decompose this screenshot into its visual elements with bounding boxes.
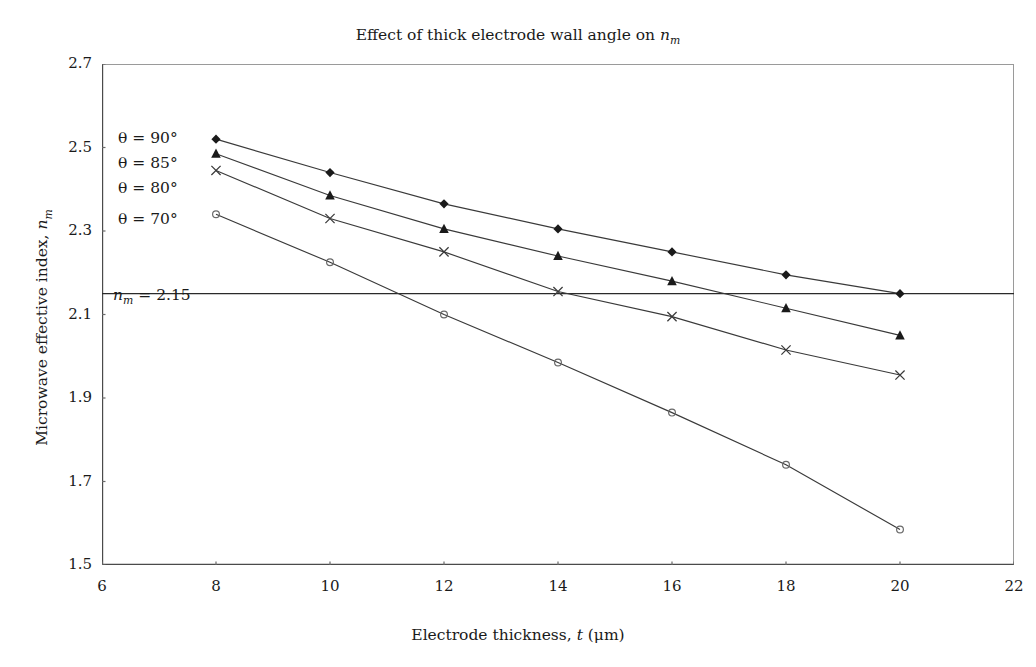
data-point-diamond-marker xyxy=(211,135,220,144)
x-axis-title-text: Electrode thickness, xyxy=(411,626,571,644)
y-axis-tick-label: 2.1 xyxy=(40,307,92,322)
x-axis-tick-label: 16 xyxy=(652,579,692,594)
reference-line-symbol: n xyxy=(113,286,123,304)
x-axis-tick-label: 22 xyxy=(994,579,1034,594)
y-axis-tick-label: 2.3 xyxy=(40,223,92,238)
x-axis-tick-label: 6 xyxy=(82,579,122,594)
reference-line-value: = 2.15 xyxy=(138,286,190,304)
x-axis-title-symbol: t xyxy=(577,626,583,644)
data-point-cross-marker xyxy=(895,370,904,379)
series-line xyxy=(216,154,900,336)
data-point-diamond-marker xyxy=(439,199,448,208)
x-axis-tick-label: 14 xyxy=(538,579,578,594)
y-axis-tick-label: 1.7 xyxy=(40,474,92,489)
data-point-cross-marker xyxy=(553,287,562,296)
x-axis-unit: (μm) xyxy=(588,626,625,644)
series-line xyxy=(216,214,900,529)
x-axis-title: Electrode thickness, t (μm) xyxy=(0,626,1036,644)
y-axis-title-text: Microwave effective index, xyxy=(33,234,51,445)
data-point-cross-marker xyxy=(667,312,676,321)
x-axis-tick-label: 18 xyxy=(766,579,806,594)
chart-title: Effect of thick electrode wall angle on … xyxy=(0,26,1036,47)
data-point-diamond-marker xyxy=(781,270,790,279)
data-point-cross-marker xyxy=(439,247,448,256)
chart-title-text: Effect of thick electrode wall angle on xyxy=(356,26,655,44)
y-axis-tick-label: 1.9 xyxy=(40,390,92,405)
plot-area xyxy=(102,64,1014,565)
data-point-cross-marker xyxy=(211,166,220,175)
data-point-diamond-marker xyxy=(553,224,562,233)
series-label: θ = 85° xyxy=(118,154,178,172)
x-axis-tick-label: 8 xyxy=(196,579,236,594)
data-point-cross-marker xyxy=(325,214,334,223)
y-axis-tick-label: 1.5 xyxy=(40,557,92,572)
series-label: θ = 90° xyxy=(118,129,178,147)
chart-figure: Effect of thick electrode wall angle on … xyxy=(0,0,1036,667)
plot-canvas xyxy=(102,64,1014,565)
series-label: θ = 70° xyxy=(118,210,178,228)
data-series xyxy=(211,135,904,299)
data-point-triangle-marker xyxy=(325,190,335,199)
data-series xyxy=(211,166,904,380)
series-line xyxy=(216,139,900,293)
data-point-diamond-marker xyxy=(895,289,904,298)
x-axis-tick-label: 10 xyxy=(310,579,350,594)
y-axis-tick-label: 2.5 xyxy=(40,140,92,155)
series-line xyxy=(216,170,900,375)
x-axis-tick-label: 20 xyxy=(880,579,920,594)
chart-title-symbol: nm xyxy=(660,26,680,44)
data-point-cross-marker xyxy=(781,345,790,354)
data-series xyxy=(211,149,905,340)
series-label: θ = 80° xyxy=(118,179,178,197)
data-point-circle-marker xyxy=(897,526,904,533)
data-point-diamond-marker xyxy=(325,168,334,177)
reference-line-label: nm = 2.15 xyxy=(113,286,191,307)
x-axis-tick-label: 12 xyxy=(424,579,464,594)
plot-frame xyxy=(103,65,1014,565)
y-axis-tick-label: 2.7 xyxy=(40,56,92,71)
data-point-diamond-marker xyxy=(667,247,676,256)
data-point-triangle-marker xyxy=(211,149,221,158)
